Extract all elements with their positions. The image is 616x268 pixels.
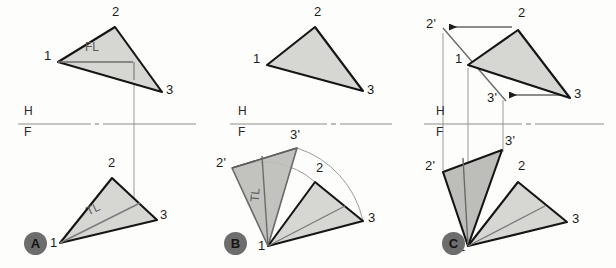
vertex-label-c-top-2: 2 bbox=[518, 5, 525, 20]
tl-label-b: TL bbox=[247, 187, 262, 202]
triangle-a-top-view bbox=[58, 27, 162, 92]
triangle-c-top-view bbox=[468, 30, 570, 98]
vertex-label-c-front-3prime: 3' bbox=[505, 133, 515, 148]
vertex-label-b-top-2: 2 bbox=[314, 4, 321, 19]
reference-label-b-f: F bbox=[238, 125, 245, 139]
triangle-b-top-view bbox=[267, 27, 363, 91]
reference-label-a-f: F bbox=[24, 125, 31, 139]
vertex-label-a-top-1: 1 bbox=[44, 48, 51, 63]
vertex-label-c-top-2prime: 2' bbox=[426, 16, 436, 31]
vertex-label-c-top-1: 1 bbox=[455, 51, 462, 66]
vertex-label-a-front-3: 3 bbox=[160, 207, 167, 222]
vertex-label-a-top-3: 3 bbox=[166, 82, 173, 97]
reference-label-b-h: H bbox=[238, 104, 247, 118]
fl-label-a: FL bbox=[85, 40, 99, 54]
triangle-a-front-view bbox=[60, 178, 157, 243]
panel-badge-c: C bbox=[442, 232, 465, 255]
reference-label-a-h: H bbox=[24, 104, 33, 118]
vertex-label-c-front-3: 3 bbox=[572, 211, 579, 226]
vertex-label-b-top-3: 3 bbox=[367, 82, 374, 97]
panel-badge-b: B bbox=[224, 232, 247, 255]
vertex-label-c-front-2: 2 bbox=[518, 158, 525, 173]
vertex-label-b-front-3prime: 3' bbox=[290, 127, 300, 142]
vertex-label-b-front-1: 1 bbox=[258, 238, 265, 253]
panel-badge-a: A bbox=[24, 232, 47, 255]
reference-label-c-h: H bbox=[436, 104, 445, 118]
vertex-label-c-top-3: 3 bbox=[574, 86, 581, 101]
reference-label-c-f: F bbox=[436, 125, 443, 139]
vertex-label-c-front-2prime: 2' bbox=[425, 158, 435, 173]
vertex-label-b-front-3: 3 bbox=[368, 210, 375, 225]
vertex-label-b-front-2prime: 2' bbox=[216, 155, 226, 170]
vertex-label-c-top-3prime: 3' bbox=[487, 90, 497, 105]
technical-drawing-figure: 1 2 3 FL H F 1 2 3 TL A 1 2 3 H F 1 2 3 … bbox=[0, 0, 616, 268]
vertex-label-a-front-2: 2 bbox=[108, 155, 115, 170]
vertex-label-a-front-1: 1 bbox=[50, 235, 57, 250]
vertex-label-b-top-1: 1 bbox=[253, 51, 260, 66]
vertex-label-b-front-2: 2 bbox=[316, 160, 323, 175]
vertex-label-a-top-2: 2 bbox=[112, 4, 119, 19]
